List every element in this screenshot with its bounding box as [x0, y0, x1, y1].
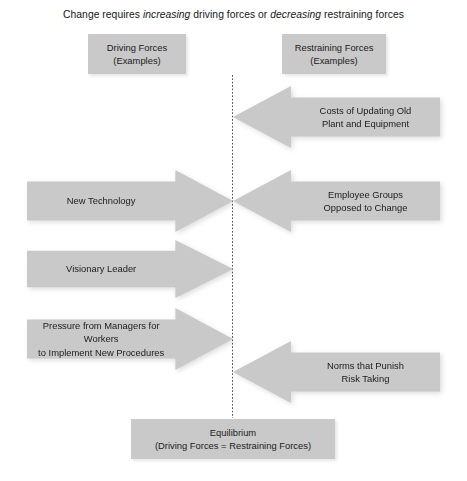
restraining-forces-header-label: Restraining Forces(Examples) — [295, 41, 374, 67]
driving-arrow-visionary-leader-label: Visionary Leader — [27, 262, 233, 275]
restraining-arrow-costs-label: Costs of Updating OldPlant and Equipment — [233, 104, 440, 130]
restraining-arrow-norms-label: Norms that PunishRisk Taking — [233, 359, 440, 385]
driving-arrow-pressure-from-managers-label: Pressure from Managers for Workersto Imp… — [27, 319, 233, 359]
title-middle: driving forces or — [190, 9, 270, 20]
driving-forces-header-box: Driving Forces(Examples) — [88, 34, 186, 74]
title-prefix: Change requires — [63, 9, 143, 20]
title-emphasis-decreasing: decreasing — [270, 9, 321, 20]
equilibrium-box: Equilibrium(Driving Forces = Restraining… — [131, 419, 335, 459]
title-suffix: restraining forces — [321, 9, 404, 20]
force-field-diagram: Change requires increasing driving force… — [0, 0, 467, 481]
diagram-title: Change requires increasing driving force… — [0, 9, 467, 20]
restraining-arrow-employee-groups-label: Employee GroupsOpposed to Change — [233, 188, 440, 214]
restraining-forces-header-box: Restraining Forces(Examples) — [282, 34, 386, 74]
restraining-arrow-costs: Costs of Updating OldPlant and Equipment — [233, 86, 440, 148]
restraining-arrow-norms: Norms that PunishRisk Taking — [233, 341, 440, 403]
equilibrium-label: Equilibrium(Driving Forces = Restraining… — [155, 426, 311, 452]
title-emphasis-increasing: increasing — [143, 9, 190, 20]
driving-arrow-visionary-leader: Visionary Leader — [27, 240, 233, 298]
driving-arrow-pressure-from-managers: Pressure from Managers for Workersto Imp… — [27, 308, 233, 370]
driving-forces-header-label: Driving Forces(Examples) — [107, 41, 167, 67]
driving-arrow-new-technology: New Technology — [27, 170, 233, 232]
driving-arrow-new-technology-label: New Technology — [27, 194, 233, 207]
restraining-arrow-employee-groups: Employee GroupsOpposed to Change — [233, 170, 440, 232]
